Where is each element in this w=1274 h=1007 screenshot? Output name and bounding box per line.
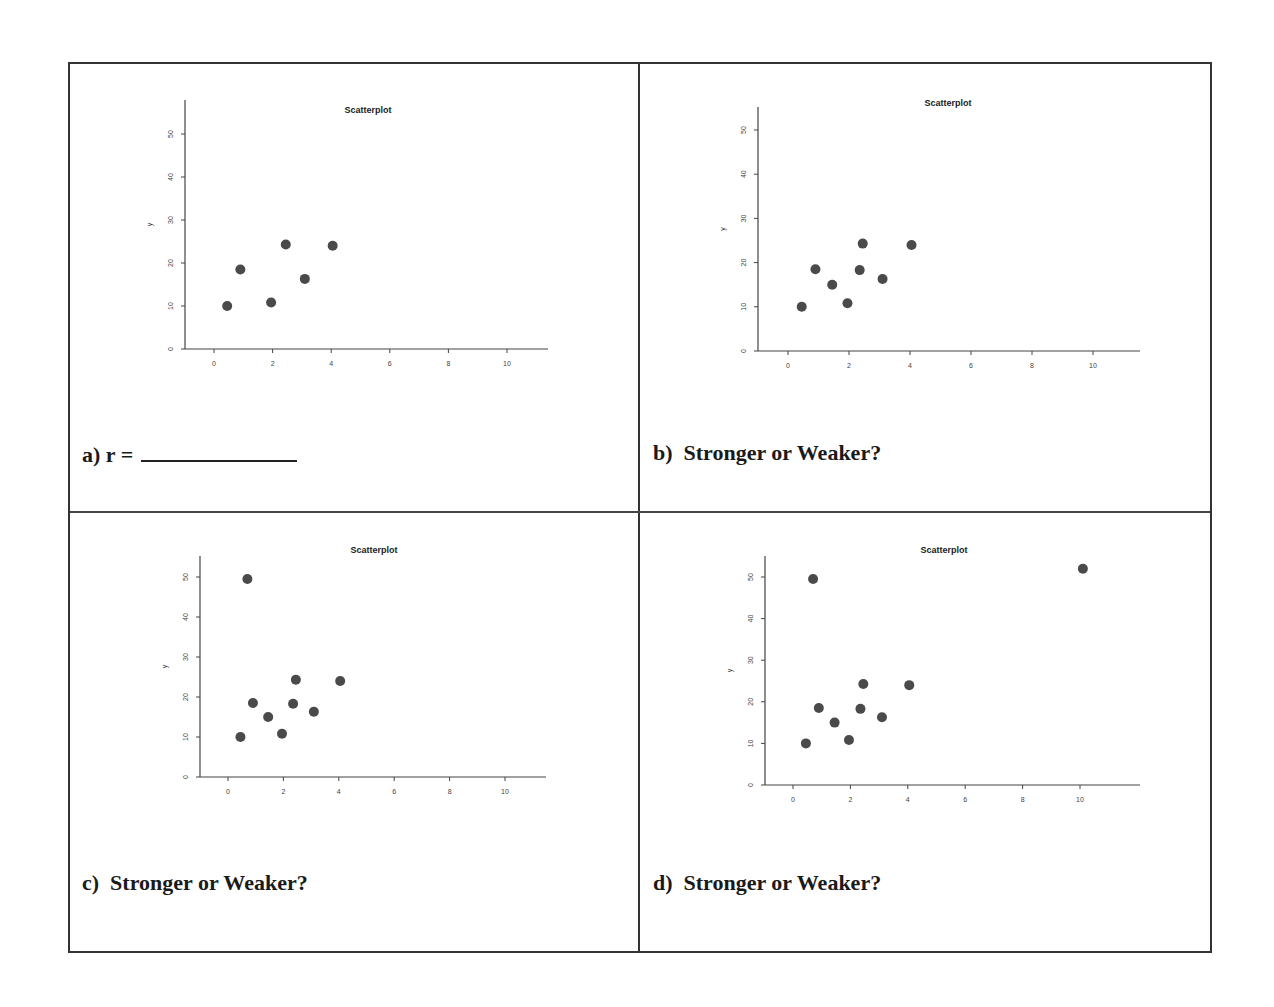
panel-d-label: d) (653, 870, 673, 895)
y-axis-label: y (161, 664, 169, 668)
x-tick-label: 8 (446, 360, 450, 367)
data-point (801, 738, 811, 748)
data-point (288, 699, 298, 709)
x-tick-label: 10 (1089, 362, 1097, 369)
data-point (842, 298, 852, 308)
y-tick-label: 20 (747, 698, 754, 706)
panel-b-label: b) (653, 440, 673, 465)
data-point (235, 264, 245, 274)
y-axis-label: y (146, 222, 154, 226)
x-tick-label: 6 (392, 788, 396, 795)
y-tick-label: 20 (182, 693, 189, 701)
scatterplot-a: Scatterploty010203040500246810 (146, 100, 548, 367)
data-point (300, 274, 310, 284)
answer-blank-r[interactable] (141, 440, 297, 462)
data-point (827, 280, 837, 290)
data-point (855, 704, 865, 714)
data-point (878, 274, 888, 284)
data-point (844, 735, 854, 745)
y-axis-label: y (719, 227, 727, 231)
data-point (266, 298, 276, 308)
y-tick-label: 10 (167, 302, 174, 310)
x-tick-label: 10 (503, 360, 511, 367)
y-tick-label: 20 (167, 259, 174, 267)
y-tick-label: 0 (182, 775, 189, 779)
scatterplots-layer: Scatterploty010203040500246810Scatterplo… (0, 0, 1274, 1007)
data-point (858, 239, 868, 249)
y-tick-label: 50 (740, 126, 747, 134)
data-point (830, 718, 840, 728)
x-tick-label: 8 (1021, 796, 1025, 803)
data-point (814, 703, 824, 713)
data-point (810, 264, 820, 274)
x-tick-label: 6 (969, 362, 973, 369)
x-tick-label: 4 (908, 362, 912, 369)
chart-title: Scatterplot (350, 545, 397, 555)
x-tick-label: 0 (786, 362, 790, 369)
y-tick-label: 40 (167, 173, 174, 181)
data-point (309, 707, 319, 717)
y-axis-label: y (726, 668, 734, 672)
y-tick-label: 0 (747, 783, 754, 787)
data-point (808, 574, 818, 584)
x-tick-label: 4 (329, 360, 333, 367)
scatterplot-b: Scatterploty010203040500246810 (719, 98, 1140, 369)
panel-b-caption: b) Stronger or Weaker? (653, 440, 881, 466)
x-tick-label: 8 (1030, 362, 1034, 369)
data-point (1078, 564, 1088, 574)
x-tick-label: 2 (847, 362, 851, 369)
x-tick-label: 6 (388, 360, 392, 367)
data-point (248, 698, 258, 708)
data-point (328, 241, 338, 251)
data-point (263, 712, 273, 722)
panel-c-question: Stronger or Weaker? (110, 870, 308, 895)
y-tick-label: 50 (182, 573, 189, 581)
data-point (235, 732, 245, 742)
x-tick-label: 6 (963, 796, 967, 803)
y-tick-label: 10 (740, 303, 747, 311)
y-tick-label: 10 (747, 739, 754, 747)
y-tick-label: 30 (740, 214, 747, 222)
x-tick-label: 0 (212, 360, 216, 367)
chart-title: Scatterplot (924, 98, 971, 108)
y-tick-label: 0 (167, 347, 174, 351)
panel-b-question: Stronger or Weaker? (684, 440, 882, 465)
panel-c-caption: c) Stronger or Weaker? (82, 870, 308, 896)
x-tick-label: 10 (501, 788, 509, 795)
data-point (907, 240, 917, 250)
x-tick-label: 0 (791, 796, 795, 803)
data-point (904, 680, 914, 690)
y-tick-label: 40 (740, 170, 747, 178)
y-tick-label: 40 (747, 615, 754, 623)
data-point (858, 679, 868, 689)
data-point (335, 676, 345, 686)
data-point (797, 302, 807, 312)
chart-title: Scatterplot (344, 105, 391, 115)
x-tick-label: 4 (337, 788, 341, 795)
y-tick-label: 30 (747, 656, 754, 664)
x-tick-label: 10 (1076, 796, 1084, 803)
y-tick-label: 50 (747, 573, 754, 581)
data-point (242, 574, 252, 584)
x-tick-label: 0 (226, 788, 230, 795)
y-tick-label: 10 (182, 733, 189, 741)
y-tick-label: 30 (182, 653, 189, 661)
y-tick-label: 20 (740, 259, 747, 267)
data-point (855, 265, 865, 275)
panel-a-caption: a) r = (82, 440, 297, 468)
scatterplot-d: Scatterploty010203040500246810 (726, 545, 1140, 803)
x-tick-label: 2 (848, 796, 852, 803)
x-tick-label: 2 (281, 788, 285, 795)
data-point (291, 675, 301, 685)
panel-a-label: a) r = (82, 442, 133, 467)
y-tick-label: 30 (167, 216, 174, 224)
x-tick-label: 8 (448, 788, 452, 795)
y-tick-label: 0 (740, 349, 747, 353)
data-point (281, 240, 291, 250)
x-tick-label: 4 (906, 796, 910, 803)
data-point (277, 729, 287, 739)
panel-c-label: c) (82, 870, 99, 895)
y-tick-label: 50 (167, 130, 174, 138)
panel-d-question: Stronger or Weaker? (684, 870, 882, 895)
panel-d-caption: d) Stronger or Weaker? (653, 870, 881, 896)
